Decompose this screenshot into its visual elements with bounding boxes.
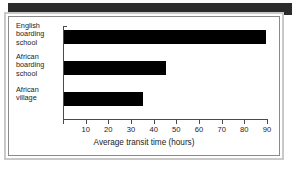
category-label-line: village [16, 94, 68, 102]
x-axis-tick-label: 50 [165, 125, 187, 134]
x-axis-tick-label: 70 [211, 125, 233, 134]
figure-container: Englishboardingschool Africanboardingsch… [0, 0, 292, 174]
category-label-line: school [16, 70, 68, 78]
x-axis-tick-label: 60 [188, 125, 210, 134]
x-axis-tick [108, 120, 109, 124]
x-axis-line [63, 119, 268, 120]
category-label-african-village: Africanvillage [16, 86, 68, 103]
x-axis-tick-label: 30 [120, 125, 142, 134]
x-axis-left-cap [63, 120, 64, 124]
bar [64, 92, 143, 106]
x-axis-title: Average transit time (hours) [8, 138, 280, 147]
y-axis-top-cap [63, 26, 67, 27]
x-axis-tick-label: 90 [256, 125, 278, 134]
category-axis-labels: Englishboardingschool Africanboardingsch… [8, 16, 63, 112]
bar-chart: Englishboardingschool Africanboardingsch… [8, 16, 280, 156]
figure-caption-fragment [6, 166, 76, 171]
x-axis-tick [154, 120, 155, 124]
bar [64, 30, 266, 44]
x-axis-tick [267, 120, 268, 124]
x-axis-tick-label: 20 [97, 125, 119, 134]
x-axis-tick-label: 40 [143, 125, 165, 134]
x-axis-tick [244, 120, 245, 124]
x-axis-tick [199, 120, 200, 124]
category-label-english-boarding-school: Englishboardingschool [16, 22, 68, 47]
x-axis-tick [86, 120, 87, 124]
x-axis-tick [131, 120, 132, 124]
x-axis-tick [222, 120, 223, 124]
x-axis-tick [176, 120, 177, 124]
bar [64, 61, 166, 75]
category-label-african-boarding-school: Africanboardingschool [16, 53, 68, 78]
category-label-line: school [16, 39, 68, 47]
x-axis-tick-label: 10 [75, 125, 97, 134]
x-axis-tick-label: 80 [233, 125, 255, 134]
